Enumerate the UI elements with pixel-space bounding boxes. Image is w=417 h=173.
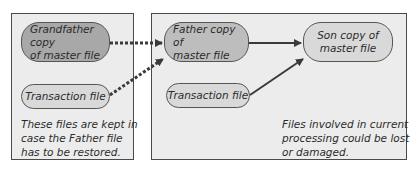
transaction-to-father-arrow [110, 59, 163, 95]
connector-arrows [0, 0, 417, 173]
transaction-to-son-arrow [250, 59, 303, 95]
